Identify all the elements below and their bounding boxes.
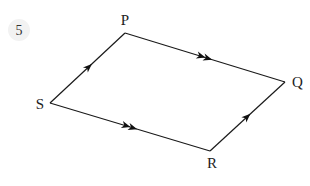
question-number: 5 <box>16 23 23 38</box>
question-number-badge: 5 <box>8 19 30 41</box>
parallelogram-diagram: 5 P Q R S <box>0 0 310 186</box>
vertex-label-s: S <box>36 96 44 112</box>
vertex-label-p: P <box>121 12 129 28</box>
vertex-label-q: Q <box>292 74 303 90</box>
vertex-label-r: R <box>207 155 217 171</box>
